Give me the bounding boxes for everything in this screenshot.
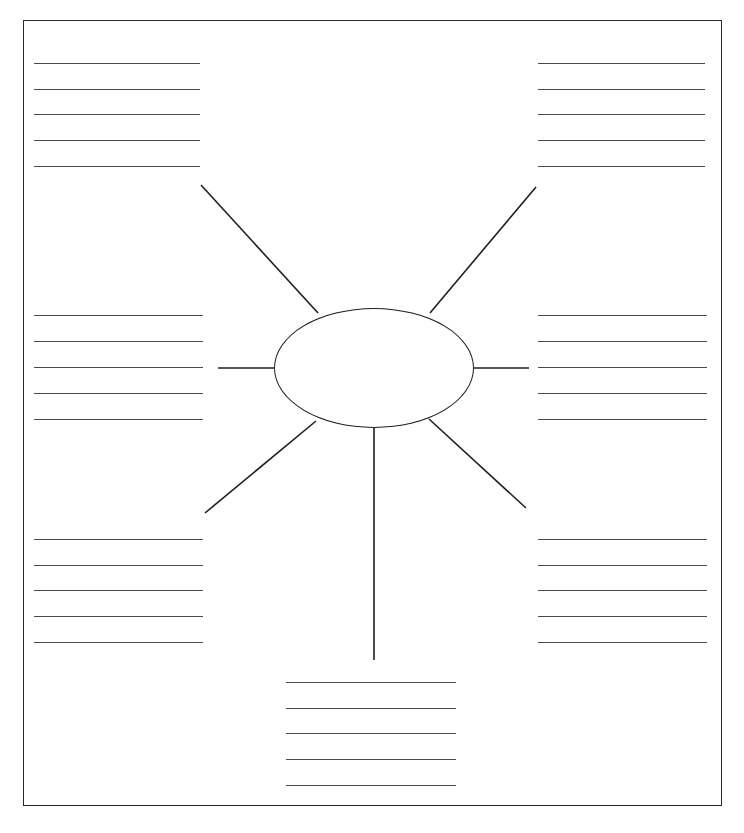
answer-line[interactable]	[34, 315, 203, 316]
answer-line[interactable]	[34, 63, 200, 64]
answer-line[interactable]	[34, 89, 200, 90]
answer-line[interactable]	[34, 565, 203, 566]
answer-line[interactable]	[538, 616, 707, 617]
answer-line[interactable]	[538, 642, 707, 643]
answer-line[interactable]	[538, 590, 707, 591]
answer-line[interactable]	[538, 315, 707, 316]
answer-block-top-left	[34, 63, 200, 168]
center-topic-ellipse[interactable]	[274, 308, 474, 428]
answer-line[interactable]	[34, 590, 203, 591]
answer-line[interactable]	[538, 539, 707, 540]
answer-line[interactable]	[286, 733, 456, 734]
answer-line[interactable]	[538, 367, 707, 368]
answer-line[interactable]	[286, 759, 456, 760]
answer-line[interactable]	[538, 63, 705, 64]
answer-line[interactable]	[538, 393, 707, 394]
answer-line[interactable]	[286, 708, 456, 709]
answer-line[interactable]	[538, 114, 705, 115]
answer-line[interactable]	[538, 419, 707, 420]
answer-block-middle-left	[34, 315, 203, 421]
answer-line[interactable]	[34, 367, 203, 368]
answer-line[interactable]	[34, 642, 203, 643]
answer-line[interactable]	[34, 616, 203, 617]
answer-block-bottom-left	[34, 539, 203, 644]
answer-line[interactable]	[538, 89, 705, 90]
answer-block-bottom-center	[286, 682, 456, 787]
answer-line[interactable]	[538, 166, 705, 167]
answer-line[interactable]	[286, 785, 456, 786]
answer-line[interactable]	[34, 419, 203, 420]
answer-line[interactable]	[34, 393, 203, 394]
worksheet-page	[0, 0, 744, 833]
answer-line[interactable]	[34, 539, 203, 540]
answer-line[interactable]	[34, 140, 200, 141]
answer-line[interactable]	[286, 682, 456, 683]
answer-line[interactable]	[34, 166, 200, 167]
answer-line[interactable]	[538, 341, 707, 342]
answer-block-top-right	[538, 63, 705, 168]
answer-block-bottom-right	[538, 539, 707, 644]
answer-line[interactable]	[538, 140, 705, 141]
answer-line[interactable]	[34, 114, 200, 115]
answer-line[interactable]	[34, 341, 203, 342]
answer-block-middle-right	[538, 315, 707, 421]
answer-line[interactable]	[538, 565, 707, 566]
